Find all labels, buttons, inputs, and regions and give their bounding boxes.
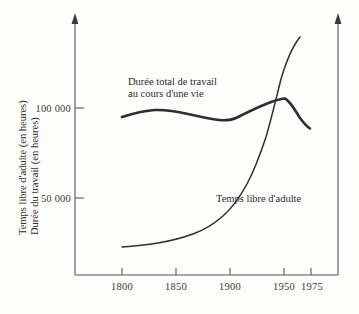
- annotation-duree-travail-line1: Durée total de travail: [128, 76, 217, 87]
- annotation-temps-libre: Temps libre d'adulte: [216, 193, 301, 204]
- y-axis-tick-labels: 100 000 50 000: [35, 103, 71, 204]
- chart-canvas: Durée total de travail au cours d'une vi…: [0, 0, 359, 314]
- x-axis-ticks: [122, 268, 311, 275]
- y-axis-label: Temps libre d'adulte (en heures) Durée d…: [17, 100, 41, 235]
- y-axis: [72, 13, 79, 275]
- right-border-axis: [335, 13, 342, 275]
- x-tick-label-1800: 1800: [111, 281, 133, 292]
- annotation-duree-travail: Durée total de travail au cours d'une vi…: [128, 76, 217, 99]
- x-tick-label-1850: 1850: [165, 281, 187, 292]
- right-border-arrow-icon: [335, 13, 342, 24]
- y-tick-label-50000: 50 000: [41, 193, 71, 204]
- chart-figure: Durée total de travail au cours d'une vi…: [0, 0, 359, 314]
- series-duree-travail-curve: [122, 99, 310, 129]
- annotation-duree-travail-line2: au cours d'une vie: [128, 88, 204, 99]
- y-axis-label-line1: Temps libre d'adulte (en heures): [17, 100, 29, 235]
- annotation-temps-libre-line1: Temps libre d'adulte: [216, 193, 301, 204]
- y-axis-ticks: [75, 108, 84, 198]
- y-axis-arrow-icon: [72, 13, 79, 24]
- y-axis-label-line2: Durée du travail (en heures): [29, 117, 41, 235]
- y-tick-label-100000: 100 000: [35, 103, 71, 114]
- series-temps-libre-curve: [122, 37, 300, 247]
- x-tick-label-1950: 1950: [273, 281, 295, 292]
- x-tick-label-1975: 1975: [301, 281, 323, 292]
- x-tick-label-1900: 1900: [219, 281, 241, 292]
- x-axis-tick-labels: 1800 1850 1900 1950 1975: [111, 281, 323, 292]
